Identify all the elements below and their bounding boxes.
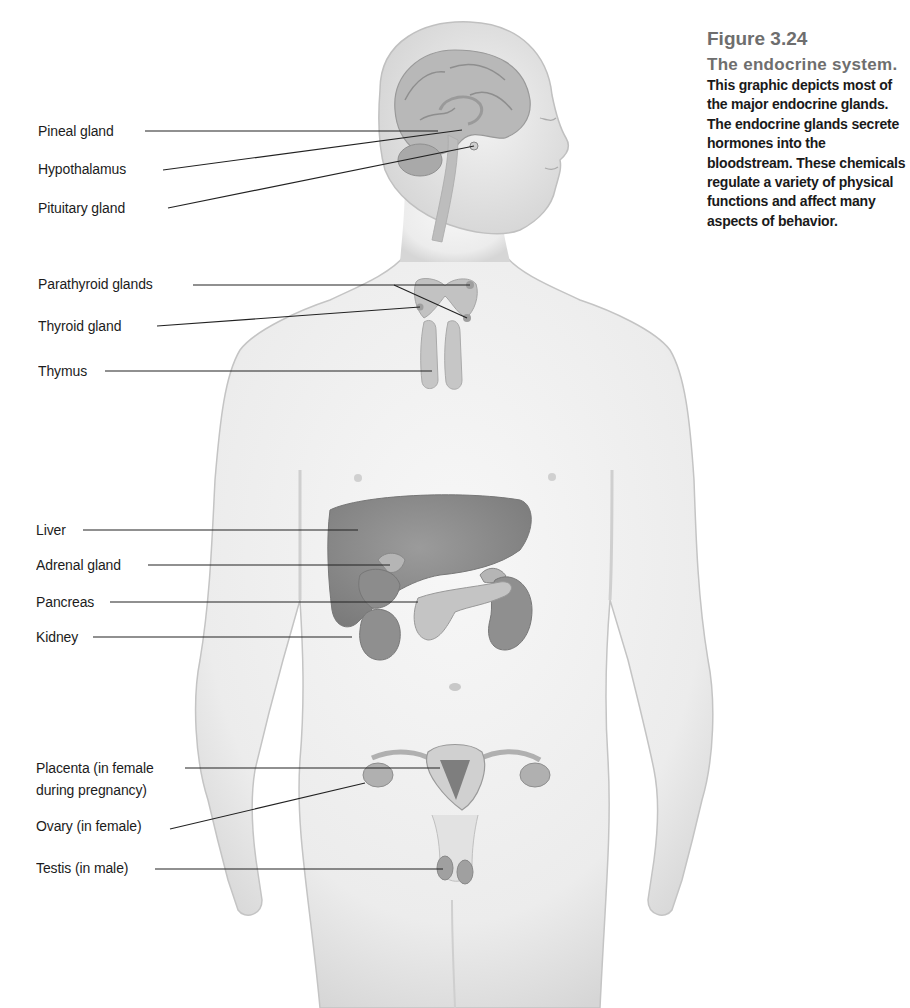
label-placenta-line1: Placenta (in female (36, 757, 154, 778)
label-thymus: Thymus (38, 360, 87, 381)
figure-title: The endocrine system. (707, 54, 910, 76)
label-pineal-gland: Pineal gland (38, 120, 114, 141)
label-adrenal-gland: Adrenal gland (36, 554, 121, 575)
label-thyroid-gland: Thyroid gland (38, 315, 121, 336)
label-parathyroid-glands: Parathyroid glands (38, 273, 153, 294)
label-ovary: Ovary (in female) (36, 815, 141, 836)
endocrine-system-figure: Pineal gland Hypothalamus Pituitary glan… (0, 0, 910, 1008)
label-kidney: Kidney (36, 626, 78, 647)
label-pituitary-gland: Pituitary gland (38, 197, 125, 218)
label-placenta-line2: during pregnancy) (36, 779, 147, 800)
figure-number: Figure 3.24 (707, 27, 910, 51)
label-liver: Liver (36, 519, 66, 540)
label-pancreas: Pancreas (36, 591, 94, 612)
kidney-icon (360, 609, 401, 660)
figure-description: This graphic depicts most of the major e… (707, 76, 910, 231)
label-testis: Testis (in male) (36, 857, 128, 878)
label-hypothalamus: Hypothalamus (38, 158, 126, 179)
figure-caption: Figure 3.24 The endocrine system. This g… (707, 27, 910, 231)
